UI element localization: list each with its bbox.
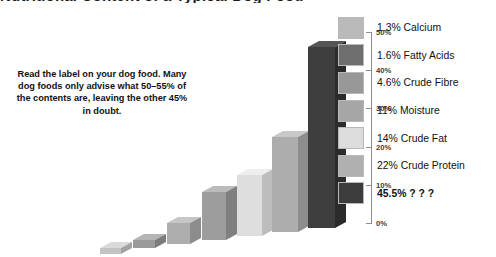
legend: 1.3% Calcium1.6% Fatty Acids4.6% Crude F… bbox=[338, 14, 496, 207]
page-title: Nutritional Content of a Typical Dog Foo… bbox=[0, 0, 340, 3]
legend-label: 14% Crude Fat bbox=[377, 133, 447, 144]
legend-swatch bbox=[338, 72, 364, 94]
legend-swatch bbox=[338, 44, 364, 66]
plot-area: 50%40%30%20%10%0% bbox=[88, 14, 293, 246]
bar-crude-protein bbox=[272, 131, 309, 232]
legend-label: 11% Moisture bbox=[377, 105, 440, 116]
axis-tick-mark bbox=[366, 223, 372, 224]
bar-calcium bbox=[100, 240, 132, 252]
bar-front-face bbox=[272, 137, 298, 232]
bar-shape bbox=[100, 242, 132, 254]
legend-label: 4.6% Crude Fibre bbox=[377, 77, 458, 88]
bar-shape bbox=[167, 217, 201, 244]
legend-label: 1.3% Calcium bbox=[377, 22, 441, 33]
legend-label: 22% Crude Protein bbox=[377, 160, 465, 171]
legend-item[interactable]: 45.5% ? ? ? bbox=[338, 180, 496, 208]
legend-item[interactable]: 1.6% Fatty Acids bbox=[338, 42, 496, 70]
legend-swatch bbox=[338, 17, 364, 39]
bar-crude-fibre bbox=[167, 217, 201, 244]
legend-item[interactable]: 1.3% Calcium bbox=[338, 14, 496, 42]
bar-front-face bbox=[308, 47, 335, 228]
legend-swatch bbox=[338, 127, 364, 149]
legend-item[interactable]: 4.6% Crude Fibre bbox=[338, 69, 496, 97]
legend-swatch bbox=[338, 155, 364, 177]
bar-moisture bbox=[202, 186, 237, 240]
bar-shape bbox=[202, 186, 237, 240]
bar-shape bbox=[272, 131, 309, 232]
legend-label: 45.5% ? ? ? bbox=[377, 188, 434, 199]
legend-label: 1.6% Fatty Acids bbox=[377, 50, 454, 61]
bar-crude-fat bbox=[237, 169, 273, 236]
chart-title-clipped: Nutritional Content of a Typical Dog Foo… bbox=[0, 0, 340, 3]
bar-side-face bbox=[226, 186, 237, 240]
legend-swatch bbox=[338, 100, 364, 122]
bar-shape bbox=[133, 234, 166, 248]
legend-item[interactable]: 11% Moisture bbox=[338, 97, 496, 125]
bar-front-face bbox=[237, 175, 262, 236]
legend-item[interactable]: 14% Crude Fat bbox=[338, 124, 496, 152]
bar-shape bbox=[237, 169, 273, 236]
legend-item[interactable]: 22% Crude Protein bbox=[338, 152, 496, 180]
chart-canvas: Nutritional Content of a Typical Dog Foo… bbox=[0, 0, 496, 257]
bar-front-face bbox=[133, 240, 155, 248]
bar-fatty-acids bbox=[133, 234, 166, 248]
bar-front-face bbox=[100, 248, 121, 254]
legend-swatch bbox=[338, 182, 364, 204]
bar-front-face bbox=[167, 223, 190, 244]
bar-front-face bbox=[202, 192, 226, 240]
axis-tick-label: 0% bbox=[376, 219, 387, 228]
